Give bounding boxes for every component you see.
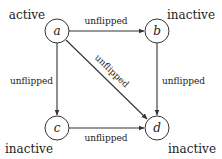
edge-c-d: unflipped [69, 128, 144, 143]
node-c: c inactive [5, 116, 69, 156]
node-a: a active [9, 8, 69, 43]
edge-b-d: unflipped [157, 43, 205, 115]
edge-label: unflipped [84, 16, 127, 26]
node-label: d [153, 121, 161, 135]
state-label: inactive [167, 8, 215, 22]
state-label: inactive [168, 142, 216, 156]
state-label: inactive [5, 142, 53, 156]
node-b: b inactive [145, 8, 215, 43]
node-label: a [53, 24, 60, 38]
edge-a-c: unflipped [10, 43, 57, 115]
node-d: d inactive [145, 116, 216, 156]
edge-label: unflipped [84, 133, 127, 143]
node-label: c [54, 121, 61, 135]
edge-label: unflipped [162, 76, 205, 86]
node-label: b [153, 24, 161, 38]
edge-a-b: unflipped [69, 16, 144, 31]
edge-a-d: unflipped [66, 40, 147, 119]
graph-diagram: unflipped unflipped unflipped unflipped … [0, 0, 222, 159]
edge-label: unflipped [10, 76, 53, 86]
state-label: active [9, 8, 45, 22]
